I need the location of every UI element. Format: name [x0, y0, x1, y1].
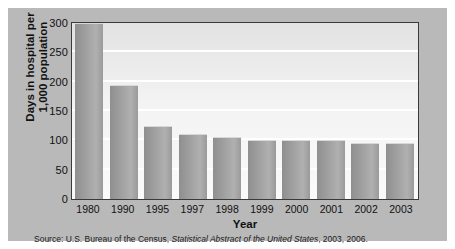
bar-1997	[179, 134, 207, 199]
bar-series	[72, 23, 418, 199]
bar-1990	[110, 85, 138, 199]
x-tick-label: 1980	[74, 203, 102, 217]
source-italic-title: Statistical Abstract of the United State…	[172, 234, 319, 244]
bar-1995	[144, 126, 172, 199]
bar-2002	[351, 143, 379, 199]
x-tick-label: 1997	[178, 203, 206, 217]
bar-1999	[248, 140, 276, 199]
figure-panel: 050100150200250300 Days in hospital per …	[8, 8, 447, 241]
bar-2001	[317, 140, 345, 199]
x-tick-label: 2000	[283, 203, 311, 217]
x-tick-label: 2001	[317, 203, 345, 217]
source-note: Source: U.S. Bureau of the Census, Stati…	[34, 234, 368, 244]
x-tick-label: 1998	[213, 203, 241, 217]
x-tick-label: 1995	[144, 203, 172, 217]
x-axis-title: Year	[71, 218, 419, 230]
x-tick-label: 2003	[387, 203, 415, 217]
x-tick-label: 2002	[352, 203, 380, 217]
bar-2000	[282, 140, 310, 199]
plot-area	[71, 22, 419, 200]
x-axis-ticks: 1980199019951997199819992000200120022003	[71, 203, 419, 217]
x-tick-label: 1999	[248, 203, 276, 217]
source-prefix: Source: U.S. Bureau of the Census,	[34, 234, 169, 244]
bar-1980	[75, 23, 103, 199]
x-tick-label: 1990	[109, 203, 137, 217]
plot-inner	[72, 23, 418, 199]
bar-2003	[386, 143, 414, 199]
bar-1998	[213, 137, 241, 199]
source-suffix: , 2003, 2006.	[318, 234, 368, 244]
y-axis-title-line1: Days in hospital per	[24, 12, 36, 121]
y-axis-title: Days in hospital per 1,000 population	[24, 0, 50, 143]
y-tick-label: 50	[34, 164, 68, 176]
y-tick-label: 0	[34, 193, 68, 205]
y-axis-title-line2: 1,000 population	[37, 22, 49, 113]
